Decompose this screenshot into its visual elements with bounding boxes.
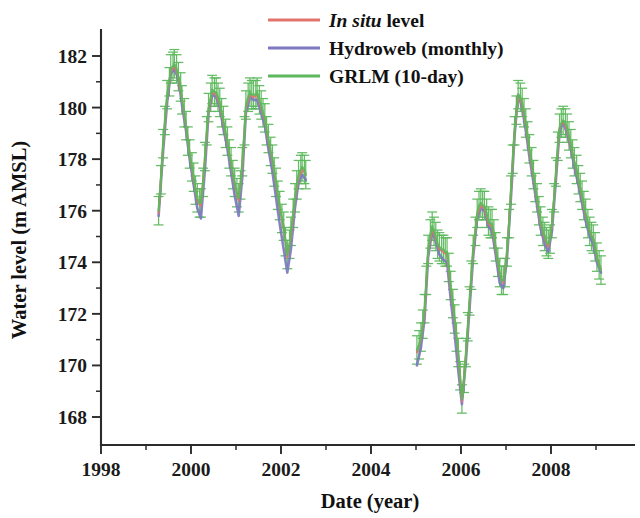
y-axis-tick-label: 180 — [58, 98, 87, 119]
legend-label: GRLM (10-day) — [329, 66, 464, 88]
legend-label-prefix: GRLM (10-day) — [329, 66, 464, 88]
water-level-line-chart: 1681701721741761781801821998200020022004… — [0, 0, 640, 518]
y-axis-tick-label: 170 — [58, 355, 87, 376]
y-axis-tick-label: 178 — [58, 149, 88, 170]
x-axis-tick-label: 2002 — [262, 459, 301, 480]
x-axis-tick-label: 1998 — [82, 459, 121, 480]
legend-label-suffix: level — [382, 10, 425, 31]
legend-label: In situ level — [328, 10, 425, 31]
y-axis-tick-label: 176 — [58, 201, 88, 222]
legend-label-prefix: In situ — [328, 10, 382, 31]
y-axis-title: Water level (m AMSL) — [8, 141, 31, 339]
y-axis-tick-label: 168 — [58, 407, 88, 428]
chart-figure: 1681701721741761781801821998200020022004… — [0, 0, 640, 518]
x-axis-title: Date (year) — [321, 490, 419, 513]
legend-label: Hydroweb (monthly) — [329, 38, 504, 60]
x-axis-tick-label: 2006 — [442, 459, 481, 480]
y-axis-tick-label: 182 — [58, 46, 87, 67]
x-axis-tick-label: 2004 — [352, 459, 391, 480]
legend-label-prefix: Hydroweb (monthly) — [329, 38, 504, 60]
y-axis-tick-label: 172 — [58, 304, 87, 325]
x-axis-tick-label: 2008 — [532, 459, 571, 480]
x-axis-tick-label: 2000 — [172, 459, 211, 480]
y-axis-tick-label: 174 — [58, 252, 88, 273]
